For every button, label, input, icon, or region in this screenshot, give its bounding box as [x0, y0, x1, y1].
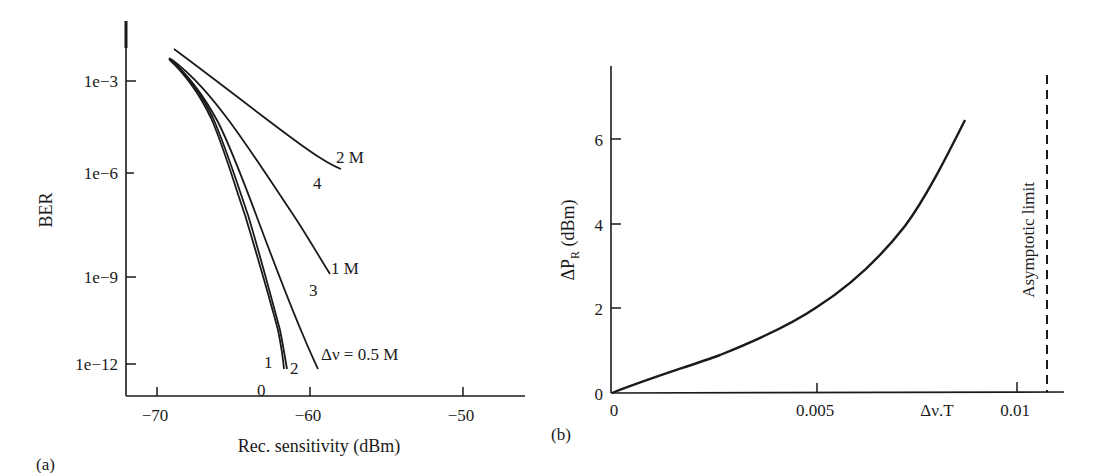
panel-b: 0 2 4 6 0 0.005 0.01 Δν.T ΔPR (dBm) (b) … — [551, 66, 1064, 444]
b-curve — [612, 120, 965, 393]
panel-a: 1e−3 1e−6 1e−9 1e−12 −70 −60 −50 Rec. se… — [36, 21, 525, 473]
b-x-tick-label: 0.005 — [796, 401, 834, 420]
a-label-0: 0 — [257, 381, 266, 400]
b-y-tick-label: 2 — [595, 300, 604, 319]
a-curve-0 — [169, 59, 284, 369]
b-asymptote-label: Asymptotic limit — [1019, 182, 1038, 298]
b-x-tick-label: 0.01 — [1000, 401, 1030, 420]
a-curve-3 — [171, 59, 330, 274]
b-y-tick-label: 4 — [595, 216, 604, 235]
a-label-3: 3 — [309, 281, 318, 300]
a-y-tick-label: 1e−6 — [84, 164, 118, 183]
a-label-4: 4 — [313, 174, 322, 193]
b-y-axis-title-sub: R — [568, 251, 582, 259]
b-y-tick-label: 6 — [595, 131, 604, 150]
b-x-axis — [611, 392, 1064, 393]
a-curve-4 — [174, 49, 341, 169]
a-x-axis-title: Rec. sensitivity (dBm) — [238, 436, 400, 457]
a-label-2M: 2 M — [336, 148, 364, 167]
a-label-1M: 1 M — [331, 259, 359, 278]
b-x-axis-title: Δν.T — [920, 401, 954, 420]
a-x-tick-label: −60 — [295, 406, 322, 425]
b-x-tick-label: 0 — [610, 401, 619, 420]
a-y-tick-label: 1e−9 — [84, 268, 118, 287]
b-y-axis-title: ΔPR (dBm) — [558, 199, 582, 280]
b-y-axis-title-main: ΔP — [558, 259, 578, 281]
a-x-tick-label: −50 — [448, 406, 475, 425]
b-y-axis-title-unit: (dBm) — [558, 199, 579, 251]
a-y-tick-label: 1e−3 — [84, 72, 118, 91]
b-y-tick-label: 0 — [595, 385, 604, 404]
a-label-2: 2 — [290, 359, 299, 378]
a-y-tick-label: 1e−12 — [75, 355, 118, 374]
a-label-1: 1 — [264, 353, 273, 372]
a-curve-1 — [169, 58, 287, 369]
b-panel-label: (b) — [551, 425, 571, 444]
a-panel-label: (a) — [36, 455, 55, 473]
a-x-tick-label: −70 — [142, 406, 169, 425]
figure: 1e−3 1e−6 1e−9 1e−12 −70 −60 −50 Rec. se… — [0, 0, 1093, 473]
a-label-dnu: Δν = 0.5 M — [321, 345, 398, 364]
a-y-axis-title: BER — [36, 192, 56, 227]
